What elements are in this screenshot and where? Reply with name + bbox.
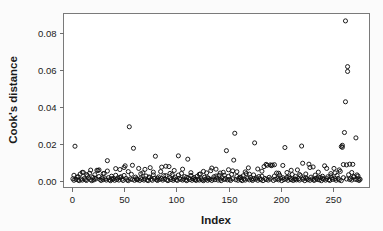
y-tick-label: 0.08 bbox=[38, 28, 57, 39]
x-tick-label: 200 bbox=[274, 194, 290, 205]
scatter-plot-canvas: 0.000.020.040.060.08 050100150200250 Ind… bbox=[0, 0, 383, 231]
y-tick-label: 0.02 bbox=[38, 139, 57, 150]
y-tick-label: 0.06 bbox=[38, 65, 57, 76]
y-tick-label: 0.00 bbox=[38, 176, 57, 187]
x-axis-tickmarks bbox=[73, 188, 334, 192]
x-axis-tick-labels: 050100150200250 bbox=[70, 194, 342, 205]
x-tick-label: 150 bbox=[222, 194, 238, 205]
cooks-distance-figure: 0.000.020.040.060.08 050100150200250 Ind… bbox=[0, 0, 383, 231]
y-axis-tickmarks bbox=[60, 34, 64, 182]
y-axis-tick-labels: 0.000.020.040.060.08 bbox=[38, 28, 57, 187]
x-tick-label: 100 bbox=[169, 194, 185, 205]
y-tick-label: 0.04 bbox=[38, 102, 57, 113]
x-tick-label: 0 bbox=[70, 194, 75, 205]
x-tick-label: 250 bbox=[326, 194, 342, 205]
x-tick-label: 50 bbox=[119, 194, 130, 205]
x-axis-title: Index bbox=[201, 214, 232, 226]
y-axis-title: Cook's distance bbox=[7, 56, 19, 144]
